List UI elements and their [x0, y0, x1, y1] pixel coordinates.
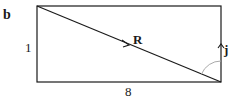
diagonal-vector-r: [37, 6, 221, 82]
height-label: 1: [25, 41, 32, 54]
panel-label: b: [3, 8, 11, 22]
angle-arc: [202, 61, 222, 74]
width-label: 8: [125, 85, 132, 98]
diagram-canvas: [0, 0, 229, 110]
unit-vector-j-label: j: [224, 43, 228, 56]
vector-r-label: R: [133, 33, 142, 46]
